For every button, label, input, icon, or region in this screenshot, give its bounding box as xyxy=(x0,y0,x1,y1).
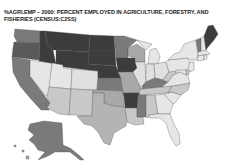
state-hi xyxy=(14,145,29,159)
state-de xyxy=(186,70,189,75)
state-wa xyxy=(14,29,40,43)
state-sd xyxy=(88,51,116,66)
state-az xyxy=(47,87,71,115)
state-ms xyxy=(137,95,146,117)
state-ks xyxy=(97,78,123,91)
state-or xyxy=(12,42,40,60)
state-co xyxy=(71,69,98,90)
state-ny xyxy=(168,40,198,60)
state-me xyxy=(204,25,218,50)
state-mt xyxy=(45,31,90,52)
state-nm xyxy=(69,89,93,116)
state-fl xyxy=(149,114,180,146)
state-ak xyxy=(28,121,84,160)
us-choropleth-map xyxy=(0,0,238,168)
state-ia xyxy=(116,58,137,72)
state-ct xyxy=(197,55,204,61)
state-ri xyxy=(204,55,207,60)
state-nd xyxy=(89,35,115,51)
